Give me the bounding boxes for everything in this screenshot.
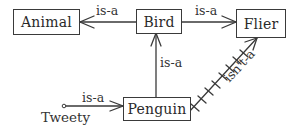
node-tweety-label: Tweety: [41, 111, 90, 125]
node-label: Animal: [21, 14, 72, 30]
edge-label-bird-flier: is-a: [195, 5, 217, 18]
edge-label-tweety-penguin: is-a: [82, 92, 104, 105]
node-label: Bird: [143, 14, 174, 30]
node-penguin: Penguin: [123, 97, 191, 121]
node-flier: Flier: [236, 9, 286, 38]
node-label: Penguin: [128, 101, 187, 117]
node-bird: Bird: [136, 9, 182, 34]
node-animal: Animal: [13, 9, 80, 35]
edge-label-penguin-bird: is-a: [160, 57, 182, 70]
node-label: Flier: [244, 16, 279, 32]
edge-label-bird-animal: is-a: [96, 5, 118, 18]
tweety-point-icon: [62, 104, 66, 108]
